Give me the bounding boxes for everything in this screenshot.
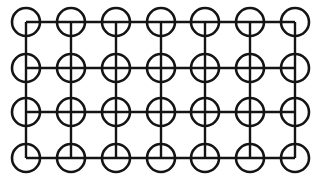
- lattice-figure: [0, 0, 323, 182]
- lattice-canvas: [0, 0, 323, 182]
